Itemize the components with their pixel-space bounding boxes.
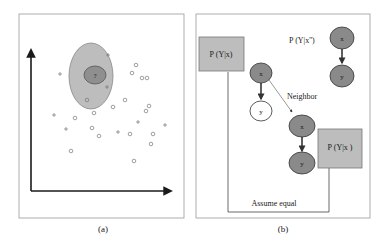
panel-a-frame	[19, 14, 184, 218]
box-p-y-given-x-label: P (Y|x)	[210, 50, 233, 59]
plus-point	[163, 123, 167, 127]
circle-point	[140, 76, 144, 80]
node-x-neighbor-label: x	[300, 123, 304, 131]
node-x-center-label: x	[259, 70, 263, 78]
neighbor-label: Neighbor	[287, 92, 318, 101]
panel-b-caption: (b)	[278, 224, 289, 234]
circle-point	[92, 111, 96, 115]
plus-point	[64, 127, 68, 131]
node-y-unknown-label: y	[259, 108, 263, 116]
panel-b: P (Y|x) x y Neighbor x y P (Y|x ) P (Y|x…	[196, 14, 370, 234]
node-x-top-label: x	[340, 35, 344, 43]
circle-point	[69, 149, 73, 153]
circle-point	[151, 132, 155, 136]
circle-point	[130, 71, 134, 75]
query-point-label: ?	[93, 72, 96, 80]
circle-point	[144, 109, 148, 113]
circle-point	[134, 63, 138, 67]
figure-canvas: ? (a) P (Y|x) x y Neighbor x y	[0, 0, 384, 242]
circle-point	[90, 126, 94, 130]
circle-point	[147, 104, 151, 108]
panel-a: ? (a)	[19, 14, 184, 234]
circle-point	[145, 76, 149, 80]
circle-point	[73, 116, 77, 120]
plus-point	[136, 120, 140, 124]
plus-point	[58, 72, 62, 76]
circle-point	[111, 105, 115, 109]
circle-point	[97, 134, 101, 138]
panel-a-caption: (a)	[98, 224, 108, 234]
circle-point	[149, 142, 153, 146]
assume-equal-label: Assume equal	[251, 199, 297, 208]
node-y-top-label: y	[340, 73, 344, 81]
circle-point	[123, 98, 127, 102]
circle-point	[132, 159, 136, 163]
plus-point	[52, 113, 56, 117]
top-right-label: P (Y|x'')	[289, 36, 315, 45]
node-y-neighbor-label: y	[300, 160, 304, 168]
box-p-y-given-x-neighbor-label: P (Y|x )	[328, 143, 353, 152]
plus-point	[116, 130, 120, 134]
circle-point	[128, 132, 132, 136]
